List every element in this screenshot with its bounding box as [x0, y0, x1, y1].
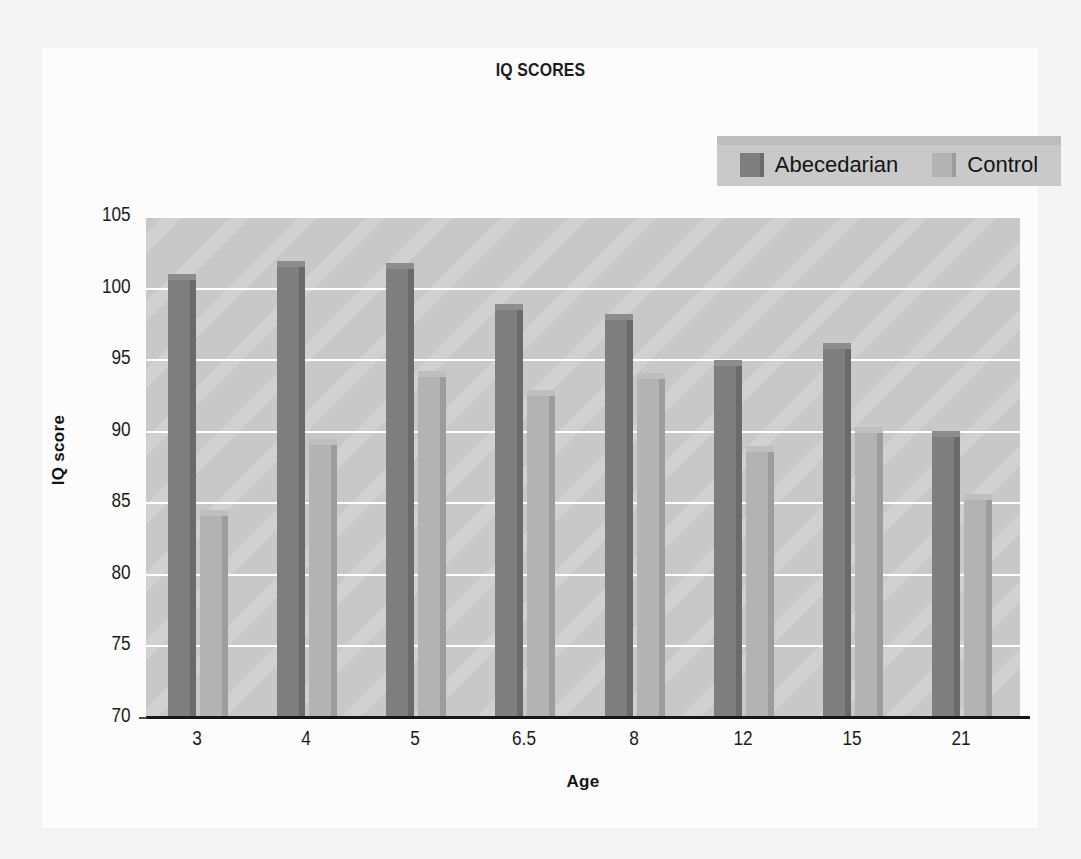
bar-control-12[interactable]	[746, 451, 772, 717]
bar-side-face	[549, 395, 555, 717]
bar-top-face	[200, 510, 228, 516]
bar-control-5[interactable]	[418, 376, 444, 717]
legend-item-abecedarian[interactable]: Abecedarian	[740, 152, 899, 178]
plot-area	[146, 216, 1020, 717]
bar-side-face	[736, 365, 742, 717]
bar-top-face	[418, 371, 446, 377]
bar-top-face	[168, 274, 196, 280]
y-tick-label: 95	[89, 346, 130, 369]
bar-side-face	[299, 266, 305, 717]
bar-face	[605, 319, 627, 717]
bar-top-face	[714, 360, 742, 366]
bar-group	[823, 216, 881, 717]
legend-swatch-side	[760, 153, 764, 177]
bar-abecedarian-4[interactable]	[277, 266, 303, 717]
x-axis-line	[146, 716, 1030, 719]
y-tick-label: 80	[89, 561, 130, 584]
bar-side-face	[954, 436, 960, 717]
bar-face	[964, 499, 986, 717]
bar-control-6.5[interactable]	[527, 395, 553, 717]
bar-top-face	[823, 343, 851, 349]
bar-top-face	[932, 431, 960, 437]
x-tick-label: 3	[162, 727, 231, 750]
bar-abecedarian-15[interactable]	[823, 348, 849, 717]
bar-face	[418, 376, 440, 717]
bar-face	[823, 348, 845, 717]
bar-group	[386, 216, 444, 717]
x-axis-title: Age	[146, 772, 1020, 792]
bar-side-face	[331, 444, 337, 717]
legend-swatch-side	[952, 153, 956, 177]
bar-face	[746, 451, 768, 717]
bar-face	[277, 266, 299, 717]
x-tick-label: 4	[271, 727, 340, 750]
legend-swatch-abecedarian	[740, 153, 764, 177]
legend-label-control: Control	[967, 152, 1038, 178]
bar-side-face	[768, 451, 774, 717]
bar-top-face	[964, 494, 992, 500]
x-tick-label: 15	[818, 727, 887, 750]
bar-top-face	[746, 446, 774, 452]
bar-group	[277, 216, 335, 717]
bar-group	[714, 216, 772, 717]
bar-face	[637, 378, 659, 717]
bar-top-face	[386, 263, 414, 269]
bar-side-face	[408, 268, 414, 717]
bar-face	[495, 309, 517, 717]
bar-side-face	[222, 515, 228, 717]
bar-abecedarian-21[interactable]	[932, 436, 958, 717]
y-tick-mark	[139, 717, 147, 719]
bar-face	[714, 365, 736, 717]
bar-abecedarian-8[interactable]	[605, 319, 631, 717]
bar-group	[495, 216, 553, 717]
bar-side-face	[440, 376, 446, 717]
bar-top-face	[309, 439, 337, 445]
y-tick-label: 105	[89, 203, 130, 226]
bar-side-face	[190, 279, 196, 717]
bar-top-face	[527, 390, 555, 396]
bar-face	[200, 515, 222, 717]
legend-item-control[interactable]: Control	[932, 152, 1038, 178]
chart-legend: Abecedarian Control	[717, 136, 1061, 186]
x-tick-label: 5	[381, 727, 450, 750]
bar-face	[168, 279, 190, 717]
chart-title: IQ SCORES	[65, 60, 1016, 81]
bar-side-face	[627, 319, 633, 717]
legend-swatch-face	[932, 153, 952, 177]
bar-group	[605, 216, 663, 717]
bar-control-8[interactable]	[637, 378, 663, 717]
bar-abecedarian-12[interactable]	[714, 365, 740, 717]
bar-top-face	[637, 373, 665, 379]
y-tick-label: 85	[89, 489, 130, 512]
page-background: IQ SCORES Abecedarian Control IQ score A…	[0, 0, 1081, 859]
x-tick-label: 21	[927, 727, 996, 750]
bars-layer	[146, 216, 1020, 717]
x-tick-label: 12	[708, 727, 777, 750]
y-tick-label: 70	[89, 704, 130, 727]
bar-control-4[interactable]	[309, 444, 335, 717]
bar-control-3[interactable]	[200, 515, 226, 717]
bar-control-15[interactable]	[855, 432, 881, 717]
bar-face	[527, 395, 549, 717]
legend-swatch-control	[932, 153, 956, 177]
bar-abecedarian-3[interactable]	[168, 279, 194, 717]
bar-side-face	[659, 378, 665, 717]
legend-label-abecedarian: Abecedarian	[775, 152, 899, 178]
y-tick-label: 90	[89, 418, 130, 441]
bar-side-face	[845, 348, 851, 717]
bar-abecedarian-5[interactable]	[386, 268, 412, 717]
bar-side-face	[877, 432, 883, 717]
bar-face	[855, 432, 877, 717]
bar-top-face	[277, 261, 305, 267]
bar-group	[932, 216, 990, 717]
bar-abecedarian-6.5[interactable]	[495, 309, 521, 717]
bar-side-face	[986, 499, 992, 717]
bar-top-face	[855, 427, 883, 433]
y-axis-title: IQ score	[49, 385, 69, 515]
x-tick-label: 8	[599, 727, 668, 750]
bar-top-face	[495, 304, 523, 310]
y-tick-label: 75	[89, 632, 130, 655]
bar-control-21[interactable]	[964, 499, 990, 717]
x-tick-label: 6.5	[490, 727, 559, 750]
bar-top-face	[605, 314, 633, 320]
